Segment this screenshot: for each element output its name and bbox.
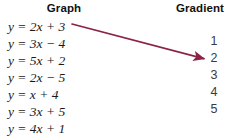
equation-text: y = 2x + 3 [8, 19, 65, 34]
column-header-graph: Graph [0, 2, 128, 14]
equation-text: y = 5x + 2 [8, 53, 65, 68]
gradient-value[interactable]: 4 [196, 84, 232, 101]
equation-row[interactable]: y = 3x − 4 [8, 35, 128, 52]
equation-text: y = x + 4 [8, 87, 58, 102]
graph-column: y = 2x + 3 y = 3x − 4 y = 5x + 2 y = 2x … [8, 18, 128, 137]
matching-exercise-figure: Graph Gradient y = 2x + 3 y = 3x − 4 y =… [0, 0, 244, 140]
gradient-value[interactable]: 1 [196, 33, 232, 50]
equation-text: y = 3x − 4 [8, 36, 65, 51]
equation-text: y = 4x + 1 [8, 121, 65, 136]
equation-row[interactable]: y = 5x + 2 [8, 52, 128, 69]
gradient-value[interactable]: 2 [196, 50, 232, 67]
equation-text: y = 2x − 5 [8, 70, 65, 85]
equation-row[interactable]: y = x + 4 [8, 86, 128, 103]
equation-row[interactable]: y = 4x + 1 [8, 120, 128, 137]
gradient-value[interactable]: 5 [196, 101, 232, 118]
gradient-column: 1 2 3 4 5 [196, 33, 232, 118]
equation-text: y = 3x + 5 [8, 104, 65, 119]
equation-row[interactable]: y = 2x + 3 [8, 18, 128, 35]
equation-row[interactable]: y = 3x + 5 [8, 103, 128, 120]
gradient-value[interactable]: 3 [196, 67, 232, 84]
equation-row[interactable]: y = 2x − 5 [8, 69, 128, 86]
column-header-gradient: Gradient [160, 2, 240, 14]
